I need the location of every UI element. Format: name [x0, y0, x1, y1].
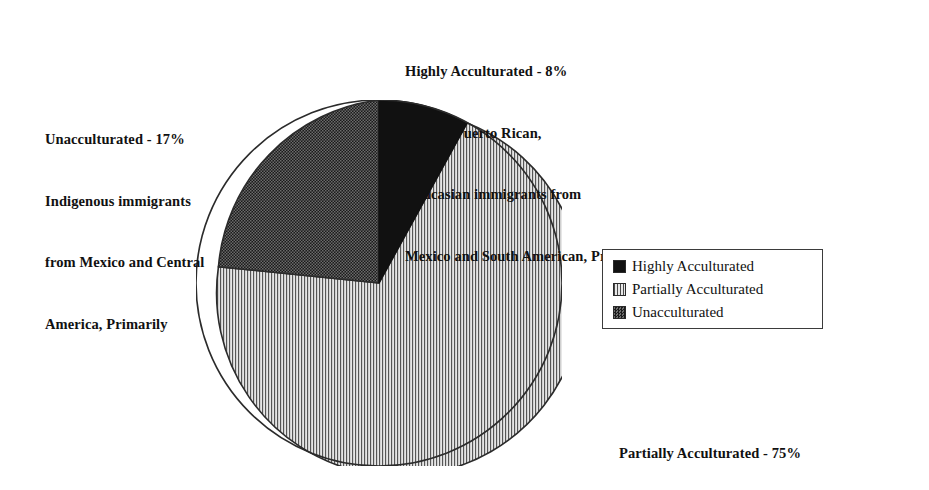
pie-chart-figure: Highly Acculturated - 8% Cuban, Puerto R…	[0, 0, 929, 490]
legend-item-partially-acculturated[interactable]: Partially Acculturated	[613, 278, 822, 301]
callout-unacculturated-line-2: Indigenous immigrants	[45, 191, 205, 212]
callout-partially-acculturated: Partially Acculturated - 75% U.S.-born a…	[619, 402, 924, 490]
pie-slice-unacculturated	[218, 100, 379, 283]
callout-unacculturated-line-4: America, Primarily	[45, 314, 205, 335]
legend-item-unacculturated[interactable]: Unacculturated	[613, 301, 822, 324]
legend-label-unacculturated: Unacculturated	[632, 304, 724, 321]
legend-swatch-vertical-hatch-icon	[613, 283, 626, 296]
callout-highly-line-1: Highly Acculturated - 8%	[405, 61, 652, 82]
chart-legend: Highly Acculturated Partially Acculturat…	[602, 249, 823, 329]
callout-highly-line-3: Caucasian immigrants from	[405, 184, 652, 205]
legend-item-highly-acculturated[interactable]: Highly Acculturated	[613, 255, 822, 278]
legend-swatch-solid-black-icon	[613, 260, 626, 273]
callout-unacculturated-line-3: from Mexico and Central	[45, 252, 205, 273]
legend-label-partially-acculturated: Partially Acculturated	[632, 281, 763, 298]
callout-unacculturated-line-1: Unacculturated - 17%	[45, 129, 205, 150]
callout-partially-line-1: Partially Acculturated - 75%	[619, 443, 924, 464]
legend-label-highly-acculturated: Highly Acculturated	[632, 258, 754, 275]
callout-unacculturated: Unacculturated - 17% Indigenous immigran…	[45, 88, 205, 375]
callout-highly-line-2: Cuban, Puerto Rican,	[405, 123, 652, 144]
legend-swatch-dark-dotted-icon	[613, 306, 626, 319]
